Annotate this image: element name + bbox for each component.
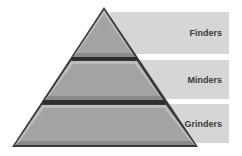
band-1	[72, 57, 137, 60]
band-2	[43, 100, 165, 104]
tier-minders	[45, 61, 163, 100]
tier-grinders	[15, 105, 195, 145]
tier-finders	[73, 10, 135, 57]
pyramid	[0, 0, 242, 156]
